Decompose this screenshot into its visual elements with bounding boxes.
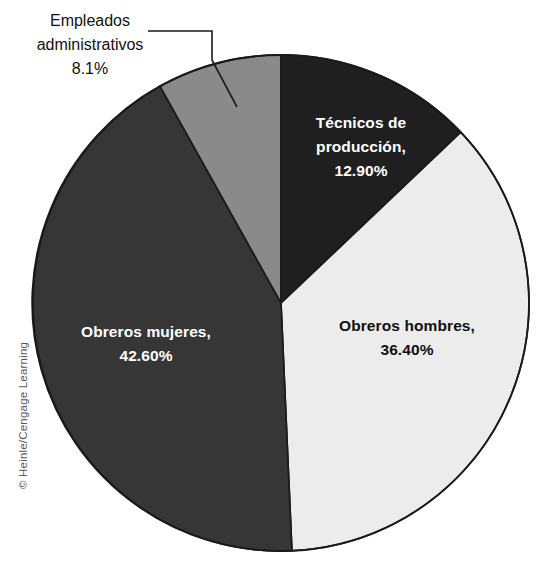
slice-label-obreros-mujeres-line1: Obreros mujeres, [81, 323, 211, 340]
slice-label-tecnicos-line2: producción, [316, 138, 406, 155]
callout-label-empleados-line3: 8.1% [72, 60, 108, 77]
callout-label-empleados-line2: administrativos [37, 36, 144, 53]
callout-label-empleados-line1: Empleados [50, 12, 130, 29]
slice-label-obreros-hombres-line1: Obreros hombres, [339, 317, 475, 334]
slice-label-tecnicos-line1: Técnicos de [316, 114, 407, 131]
pie-chart-figure: Técnicos de producción, 12.90% Obreros h… [0, 0, 545, 585]
slice-label-obreros-mujeres-line2: 42.60% [119, 347, 172, 364]
slice-label-obreros-hombres-line2: 36.40% [380, 341, 433, 358]
pie-chart-svg: Técnicos de producción, 12.90% Obreros h… [0, 0, 545, 585]
slice-label-tecnicos-line3: 12.90% [334, 162, 387, 179]
copyright-credit: © Heinle/Cengage Learning [17, 319, 29, 489]
